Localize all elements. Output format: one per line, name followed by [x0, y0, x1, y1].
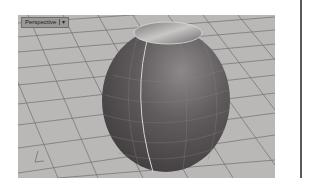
viewport-title-tab[interactable]: Perspective▾ — [21, 17, 69, 28]
viewport-canvas[interactable] — [18, 15, 275, 178]
chevron-down-icon[interactable]: ▾ — [59, 19, 65, 25]
perspective-viewport[interactable]: Perspective▾ — [18, 15, 275, 178]
vessel-model — [102, 22, 230, 172]
panel-divider — [300, 0, 302, 178]
viewport-title: Perspective — [25, 19, 56, 25]
world-axes-icon — [35, 151, 44, 162]
